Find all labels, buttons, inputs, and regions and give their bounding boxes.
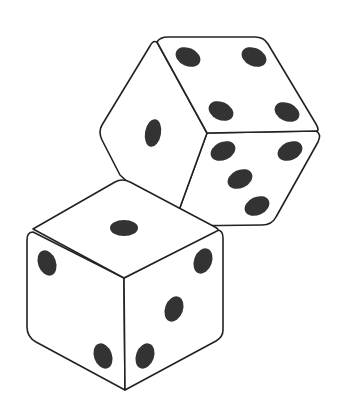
pip <box>110 220 138 236</box>
dice-illustration <box>0 0 337 415</box>
